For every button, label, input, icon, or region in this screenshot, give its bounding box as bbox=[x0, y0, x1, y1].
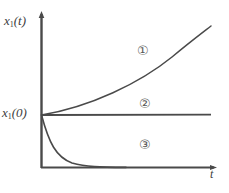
curve-3-decay bbox=[42, 115, 127, 167]
initial-value-label-argument: (0) bbox=[12, 105, 27, 120]
y-axis-label: x1(t) bbox=[4, 14, 26, 29]
x-axis-label: t bbox=[210, 168, 213, 180]
curve-tag-1: ① bbox=[137, 44, 149, 57]
y-axis-label-argument: (t) bbox=[14, 13, 26, 28]
curve-1-growth bbox=[42, 26, 212, 115]
plot-canvas bbox=[0, 0, 229, 193]
figure-container: x1(t) x1(0) t ① ② ③ bbox=[0, 0, 229, 193]
initial-value-label: x1(0) bbox=[2, 106, 27, 121]
y-axis-arrowhead bbox=[39, 11, 45, 18]
curve-tag-3: ③ bbox=[139, 138, 151, 151]
curve-tag-2: ② bbox=[139, 97, 151, 110]
